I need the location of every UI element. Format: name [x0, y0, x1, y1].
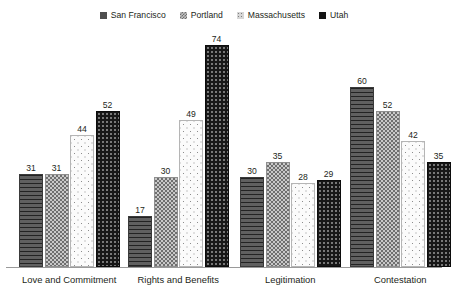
- bar-value-utah-contestation: 35: [427, 151, 451, 161]
- bar-value-san-francisco-rights-and-benefits: 17: [128, 205, 152, 215]
- category-label-rights-and-benefits: Rights and Benefits: [114, 274, 243, 285]
- bar-slot-massachusetts-contestation: 42: [401, 129, 425, 267]
- bar-slot-utah-legitimation: 29: [317, 168, 341, 267]
- bar-value-san-francisco-contestation: 60: [350, 76, 374, 86]
- bar-massachusetts-rights-and-benefits[interactable]: [179, 120, 203, 267]
- bar-slot-utah-love-and-commitment: 52: [96, 99, 120, 267]
- bar-utah-legitimation[interactable]: [317, 180, 341, 267]
- bar-utah-rights-and-benefits[interactable]: [205, 45, 229, 267]
- bar-portland-love-and-commitment[interactable]: [45, 174, 69, 267]
- bar-value-portland-rights-and-benefits: 30: [154, 166, 178, 176]
- bar-slot-utah-contestation: 35: [427, 150, 451, 267]
- bar-slot-portland-legitimation: 35: [266, 150, 290, 267]
- bar-slot-san-francisco-legitimation: 30: [240, 165, 264, 267]
- bar-slot-san-francisco-love-and-commitment: 31: [19, 162, 43, 267]
- bar-value-san-francisco-legitimation: 30: [240, 166, 264, 176]
- bar-san-francisco-legitimation[interactable]: [240, 177, 264, 267]
- bar-group-love-and-commitment: 31314452: [19, 35, 120, 267]
- bar-massachusetts-love-and-commitment[interactable]: [70, 135, 94, 267]
- bar-massachusetts-legitimation[interactable]: [291, 183, 315, 267]
- category-label-contestation: Contestation: [336, 274, 455, 285]
- bar-san-francisco-rights-and-benefits[interactable]: [128, 216, 152, 267]
- bar-value-portland-contestation: 52: [376, 100, 400, 110]
- bar-slot-massachusetts-rights-and-benefits: 49: [179, 108, 203, 267]
- bar-slot-san-francisco-rights-and-benefits: 17: [128, 204, 152, 267]
- bar-value-massachusetts-rights-and-benefits: 49: [179, 109, 203, 119]
- bar-group-contestation: 60524235: [350, 35, 451, 267]
- bar-portland-legitimation[interactable]: [266, 162, 290, 267]
- bar-utah-contestation[interactable]: [427, 162, 451, 267]
- bar-group-rights-and-benefits: 17304974: [128, 35, 229, 267]
- bar-value-utah-rights-and-benefits: 74: [205, 34, 229, 44]
- bar-value-portland-legitimation: 35: [266, 151, 290, 161]
- bar-value-utah-legitimation: 29: [317, 169, 341, 179]
- bar-portland-contestation[interactable]: [376, 111, 400, 267]
- bar-slot-massachusetts-legitimation: 28: [291, 171, 315, 267]
- x-axis-line: [6, 267, 442, 268]
- bar-san-francisco-love-and-commitment[interactable]: [19, 174, 43, 267]
- bar-group-legitimation: 30352829: [240, 35, 341, 267]
- bar-san-francisco-contestation[interactable]: [350, 87, 374, 267]
- bar-slot-portland-love-and-commitment: 31: [45, 162, 69, 267]
- bar-massachusetts-contestation[interactable]: [401, 141, 425, 267]
- bar-slot-massachusetts-love-and-commitment: 44: [70, 123, 94, 267]
- bar-value-massachusetts-love-and-commitment: 44: [70, 124, 94, 134]
- bar-portland-rights-and-benefits[interactable]: [154, 177, 178, 267]
- bar-value-massachusetts-contestation: 42: [401, 130, 425, 140]
- bar-value-san-francisco-love-and-commitment: 31: [19, 163, 43, 173]
- bar-slot-portland-rights-and-benefits: 30: [154, 165, 178, 267]
- bar-slot-portland-contestation: 52: [376, 99, 400, 267]
- bar-slot-san-francisco-contestation: 60: [350, 75, 374, 267]
- bar-value-massachusetts-legitimation: 28: [291, 172, 315, 182]
- bar-utah-love-and-commitment[interactable]: [96, 111, 120, 267]
- bar-slot-utah-rights-and-benefits: 74: [205, 33, 229, 267]
- bar-value-portland-love-and-commitment: 31: [45, 163, 69, 173]
- bar-value-utah-love-and-commitment: 52: [96, 100, 120, 110]
